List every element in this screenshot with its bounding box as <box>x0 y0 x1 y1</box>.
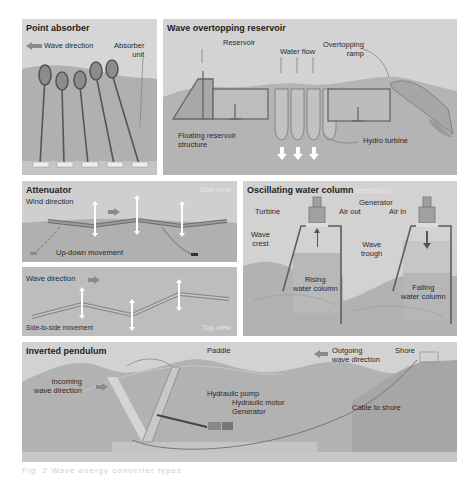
wave-direction-label: Wave direction <box>26 275 75 284</box>
panel-title: Inverted pendulum <box>26 346 107 356</box>
air-out-label: Air out <box>339 208 361 217</box>
absorber-unit-label: Absorber unit <box>114 42 144 59</box>
hydro-turbine-label: Hydro turbine <box>363 137 408 146</box>
panel-title: Wave overtopping reservoir <box>167 23 286 33</box>
side-view-label: Side view <box>199 185 231 194</box>
shore-label: Shore <box>395 347 415 356</box>
wave-direction-arrow-icon <box>88 276 100 284</box>
wave-trough-label: Wave trough <box>361 241 382 258</box>
outgoing-wave-label: Outgoing wave direction <box>332 347 380 364</box>
overtopping-illustration <box>163 19 457 175</box>
rising-column-label: Rising water column <box>293 276 338 293</box>
wave-crest-label: Wave crest <box>251 231 270 248</box>
panel-title: Oscillating water column <box>247 185 354 195</box>
wind-direction-arrow-icon <box>108 208 120 216</box>
panel-oscillating-water-column: Oscillating water column (terminator) Tu… <box>243 181 457 336</box>
top-view-label: Top view <box>202 323 231 332</box>
terminator-label: (terminator) <box>353 186 392 195</box>
figure-caption: Fig. 2 Wave energy converter types <box>22 466 182 475</box>
panel-title: Point absorber <box>26 23 90 33</box>
air-in-label: Air in <box>389 208 406 217</box>
wave-direction-label: Wave direction <box>44 42 93 51</box>
panel-attenuator-top: Wave direction Top view Side-to-side mov… <box>22 267 237 336</box>
paddle-label: Paddle <box>207 347 230 356</box>
floating-structure-label: Floating reservoir structure <box>178 132 236 149</box>
water-flow-label: Water flow <box>280 48 315 57</box>
panel-attenuator-side: Attenuator Side view Wind direction Up-d… <box>22 181 237 262</box>
wave-direction-arrow-icon <box>26 42 42 50</box>
panel-point-absorber: Point absorber Wave direction Absorber u… <box>22 19 157 175</box>
falling-column-label: Falling water column <box>401 284 446 301</box>
turbine-label: Turbine <box>255 208 280 217</box>
outgoing-arrow-icon <box>314 350 328 358</box>
cable-to-shore-label: Cable to shore <box>352 404 401 413</box>
owc-illustration <box>243 181 457 336</box>
generator-label: Generator <box>232 408 266 417</box>
panel-title: Attenuator <box>26 185 72 195</box>
generator-label: Generator <box>359 199 393 208</box>
panel-inverted-pendulum: Inverted pendulum Paddle Outgoing wave d… <box>22 342 457 462</box>
up-down-movement-label: Up-down movement <box>56 249 123 258</box>
side-to-side-movement-label: Side-to-side movement <box>26 324 93 333</box>
overtopping-ramp-label: Overtopping ramp <box>323 41 364 58</box>
panel-wave-overtopping: Wave overtopping reservoir Reservoir Wat… <box>163 19 457 175</box>
wind-direction-label: Wind direction <box>26 198 74 207</box>
incoming-wave-label: Incoming wave direction <box>34 378 82 395</box>
reservoir-label: Reservoir <box>223 39 255 48</box>
